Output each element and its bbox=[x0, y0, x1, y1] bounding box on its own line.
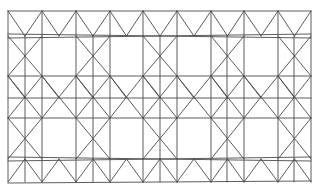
top-diagonal bbox=[194, 11, 211, 36]
top-diagonal bbox=[8, 11, 25, 36]
top-diagonal bbox=[25, 11, 42, 36]
top-diagonal bbox=[59, 11, 76, 36]
top-diagonal bbox=[295, 11, 312, 36]
top-diagonal bbox=[160, 11, 177, 36]
top-diagonal bbox=[278, 11, 295, 36]
truss-lattice-canvas bbox=[0, 0, 317, 193]
bottom-diagonal bbox=[160, 159, 177, 182]
diamond-edge bbox=[177, 76, 194, 98]
top-diagonal bbox=[93, 11, 110, 36]
bottom-diagonal bbox=[228, 159, 245, 182]
bottom-diagonal bbox=[261, 159, 278, 182]
top-diagonal bbox=[261, 11, 278, 36]
bottom-diagonal bbox=[177, 159, 194, 182]
top-diagonal bbox=[244, 11, 261, 36]
bottom-diagonal bbox=[244, 159, 261, 182]
bottom-diagonal bbox=[59, 159, 76, 182]
bottom-diagonal bbox=[143, 159, 160, 182]
top-diagonal bbox=[228, 11, 245, 36]
bottom-diagonal bbox=[110, 159, 127, 182]
bottom-chord bbox=[8, 181, 311, 183]
bottom-diagonal bbox=[93, 159, 110, 182]
bottom-diagonal bbox=[76, 159, 93, 182]
top-diagonal bbox=[211, 11, 228, 36]
bottom-diagonal bbox=[295, 159, 312, 182]
diamond-edge bbox=[143, 76, 160, 98]
top-diagonal bbox=[76, 11, 93, 36]
diamond-edge bbox=[110, 76, 127, 98]
diamond-edge bbox=[244, 76, 261, 98]
bottom-diagonal bbox=[194, 159, 211, 182]
top-diagonal bbox=[177, 11, 194, 36]
bottom-diagonal bbox=[278, 159, 295, 182]
bottom-diagonal bbox=[25, 159, 42, 182]
diamond-edge bbox=[211, 76, 228, 98]
top-diagonal bbox=[110, 11, 127, 36]
diamond-edge bbox=[278, 76, 295, 98]
diamond-edge bbox=[42, 76, 59, 98]
bottom-diagonal bbox=[127, 159, 144, 182]
diamond-edge bbox=[8, 76, 25, 98]
bottom-diagonal bbox=[211, 159, 228, 182]
truss-lines bbox=[8, 11, 311, 183]
diamond-edge bbox=[76, 76, 93, 98]
top-diagonal bbox=[143, 11, 160, 36]
top-diagonal bbox=[127, 11, 144, 36]
top-diagonal bbox=[42, 11, 59, 36]
bottom-diagonal bbox=[42, 159, 59, 182]
bottom-diagonal bbox=[8, 159, 25, 182]
